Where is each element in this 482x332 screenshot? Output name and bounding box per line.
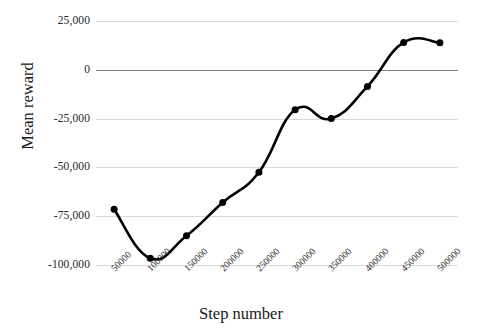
data-point-marker (111, 206, 118, 213)
y-axis-tick-label: -75,000 (6, 210, 90, 222)
data-point-marker (328, 115, 335, 122)
chart-page: Mean reward 25,0000-25,000-50,000-75,000… (0, 0, 482, 332)
y-axis-tick-labels: 25,0000-25,000-50,000-75,000-100,000 (0, 21, 90, 265)
data-point-marker (364, 83, 371, 90)
y-axis-tick-label: -25,000 (6, 113, 90, 125)
series-line-chart (96, 21, 458, 265)
y-axis-tick-label: 25,000 (6, 15, 90, 27)
y-axis-tick-label: -100,000 (6, 259, 90, 271)
data-point-marker (255, 169, 262, 176)
plot-area (96, 21, 458, 265)
x-axis-title: Step number (0, 304, 482, 324)
data-point-marker (219, 199, 226, 206)
series-line (114, 38, 440, 259)
y-axis-tick-label: -50,000 (6, 161, 90, 173)
y-axis-tick-label: 0 (6, 64, 90, 76)
data-point-marker (400, 39, 407, 46)
data-point-marker (183, 232, 190, 239)
data-point-marker (292, 106, 299, 113)
data-point-marker (436, 39, 443, 46)
